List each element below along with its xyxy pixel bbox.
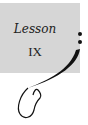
flourish-ornament-icon (0, 0, 88, 125)
